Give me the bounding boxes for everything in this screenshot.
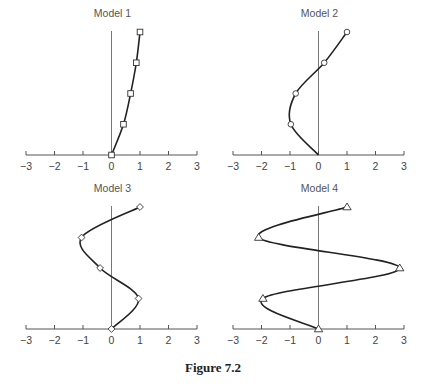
panel-title: Model 1 [94, 7, 132, 19]
series-curve [258, 207, 400, 329]
x-tick-label: 3 [401, 334, 407, 346]
diamond-marker [137, 204, 144, 211]
square-marker [133, 60, 139, 66]
panel-title: Model 3 [94, 182, 132, 194]
x-tick-label: −3 [227, 334, 239, 346]
x-tick-label: 2 [166, 334, 172, 346]
panel-model-4: Model 4−3−2−10123 [227, 182, 407, 346]
x-tick-label: 0 [109, 334, 115, 346]
x-tick-label: −2 [256, 160, 268, 172]
panel-model-3: Model 3−3−2−10123 [20, 182, 200, 346]
x-tick-label: −3 [20, 334, 32, 346]
panel-model-2: Model 2−3−2−10123 [227, 7, 407, 172]
x-tick-label: 2 [373, 160, 379, 172]
diamond-marker [135, 295, 142, 302]
panel-model-1: Model 1−3−2−10123 [20, 7, 200, 172]
circle-marker [321, 60, 327, 66]
figure-caption: Figure 7.2 [0, 360, 426, 376]
series-curve [112, 32, 141, 155]
square-marker [137, 29, 143, 35]
x-tick-label: 3 [194, 334, 200, 346]
x-tick-label: 1 [137, 160, 143, 172]
x-tick-label: 0 [109, 160, 115, 172]
square-marker [109, 152, 115, 158]
x-tick-label: −2 [49, 334, 61, 346]
x-tick-label: −2 [49, 160, 61, 172]
x-tick-label: −2 [256, 334, 268, 346]
panel-title: Model 2 [301, 7, 339, 19]
panel-title: Model 4 [301, 182, 339, 194]
circle-marker [288, 121, 294, 127]
x-tick-label: 0 [316, 334, 322, 346]
triangle-marker [254, 234, 262, 241]
circle-marker [293, 91, 299, 97]
circle-marker [344, 29, 350, 35]
x-tick-label: −1 [77, 334, 89, 346]
square-marker [121, 121, 127, 127]
x-tick-label: 3 [194, 160, 200, 172]
x-tick-label: −3 [227, 160, 239, 172]
x-tick-label: −1 [77, 160, 89, 172]
x-tick-label: −1 [284, 334, 296, 346]
figure-canvas: Model 1−3−2−10123Model 2−3−2−10123Model … [0, 0, 426, 360]
x-tick-label: 3 [401, 160, 407, 172]
series-curve [80, 207, 140, 329]
x-tick-label: 2 [166, 160, 172, 172]
x-tick-label: 1 [344, 160, 350, 172]
x-tick-label: 1 [344, 334, 350, 346]
x-tick-label: 2 [373, 334, 379, 346]
square-marker [128, 91, 134, 97]
x-tick-label: −3 [20, 160, 32, 172]
x-tick-label: −1 [284, 160, 296, 172]
triangle-marker [259, 295, 267, 302]
x-tick-label: 0 [316, 160, 322, 172]
x-tick-label: 1 [137, 334, 143, 346]
triangle-marker [343, 203, 351, 210]
